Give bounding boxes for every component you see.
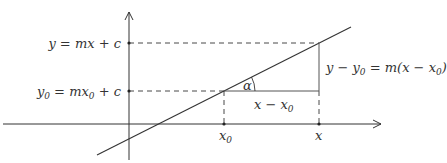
dot-x (317, 122, 320, 125)
dot-y0 (127, 89, 130, 92)
dot-x0 (222, 122, 225, 125)
label-run: x − x0 (254, 97, 294, 114)
angle-arc (252, 77, 256, 91)
dot-y (127, 41, 130, 44)
slope-diagram: y = mx + c y0 = mx0 + c x0 x α x − x0 y … (0, 0, 447, 163)
label-alpha: α (243, 78, 252, 93)
label-x: x (315, 128, 323, 143)
label-y-eq: y = mx + c (47, 36, 121, 51)
label-x0: x0 (219, 128, 232, 145)
label-rise: y − y0 = m(x − x0) (325, 60, 447, 77)
label-y0-eq: y0 = mx0 + c (36, 84, 122, 101)
